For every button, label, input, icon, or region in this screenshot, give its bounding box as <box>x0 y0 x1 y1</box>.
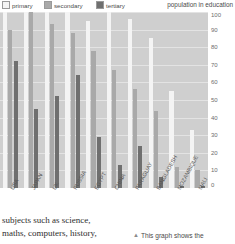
y-axis-tick-label: 70 <box>211 62 218 68</box>
body-copy-line-2: maths, computers, history, <box>2 227 122 240</box>
bar-secondary <box>29 12 33 188</box>
y-axis-tick-label: 10 <box>211 167 218 173</box>
legend-label-secondary: secondary <box>54 2 83 9</box>
body-copy: subjects such as science, maths, compute… <box>2 214 122 239</box>
chart-legend: primary secondary tertiary population in… <box>0 0 235 12</box>
bar-primary <box>128 19 132 188</box>
bar-secondary <box>154 111 158 188</box>
bar-group <box>62 12 83 188</box>
figure-caption-text: This graph shows the <box>141 231 204 240</box>
bar-group <box>83 12 104 188</box>
triangle-marker-icon: ▲ <box>133 231 139 240</box>
bar-group <box>0 12 21 188</box>
chart-title: population in education <box>167 1 233 8</box>
y-axis: 0102030405060708090100 <box>208 12 235 188</box>
bar-secondary <box>71 33 75 188</box>
bar-primary <box>169 91 173 188</box>
y-axis-tick-label: 40 <box>211 115 218 121</box>
bar-secondary <box>91 51 95 188</box>
y-axis-tick-label: 30 <box>211 132 218 138</box>
legend-item-primary: primary <box>2 1 33 9</box>
bar-secondary <box>50 24 54 188</box>
y-axis-tick-label: 80 <box>211 44 218 50</box>
bar-group <box>104 12 125 188</box>
body-copy-line-1: subjects such as science, <box>2 214 122 227</box>
y-axis-tick-label: 0 <box>211 182 214 188</box>
chart-plot-area <box>0 12 208 188</box>
bar-primary <box>107 12 111 188</box>
legend-label-tertiary: tertiary <box>106 2 125 9</box>
figure-caption: ▲ This graph shows the <box>133 231 233 240</box>
legend-item-tertiary: tertiary <box>96 1 125 9</box>
y-axis-tick-label: 90 <box>211 27 218 33</box>
bar-group <box>21 12 42 188</box>
bar-group <box>42 12 63 188</box>
legend-item-secondary: secondary <box>44 1 83 9</box>
y-axis-tick-label: 100 <box>211 12 221 18</box>
legend-label-primary: primary <box>12 2 33 9</box>
bar-primary <box>86 21 90 188</box>
legend-swatch-primary <box>2 1 10 9</box>
bar-secondary <box>112 70 116 188</box>
bar-primary <box>24 12 28 188</box>
y-axis-tick-label: 20 <box>211 150 218 156</box>
bar-tertiary <box>76 75 80 188</box>
bar-tertiary <box>55 96 59 188</box>
bar-tertiary <box>14 61 18 188</box>
bar-secondary <box>8 30 12 188</box>
legend-swatch-secondary <box>44 1 52 9</box>
y-axis-tick-label: 50 <box>211 97 218 103</box>
legend-swatch-tertiary <box>96 1 104 9</box>
bar-secondary <box>133 89 137 188</box>
bar-primary <box>45 12 49 188</box>
y-axis-tick-label: 60 <box>211 79 218 85</box>
bar-primary <box>3 12 7 188</box>
bar-group <box>125 12 146 188</box>
x-axis-labels: USAJAPANUKRUSSIAEGYPTCHINAPARAGUAYBANGLA… <box>0 188 208 214</box>
bar-primary <box>65 12 69 188</box>
